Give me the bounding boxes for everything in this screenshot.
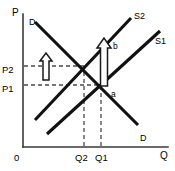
supply-curve-s1-label: S1 xyxy=(155,30,166,48)
demand-curve xyxy=(35,22,138,125)
chart-canvas xyxy=(0,0,175,171)
origin-label: 0 xyxy=(14,147,19,165)
p2-tick-label: P2 xyxy=(2,59,14,77)
x-axis-label: Q xyxy=(160,145,168,163)
supply-curve-s2-label: S2 xyxy=(134,5,145,23)
point-b-label: b xyxy=(113,35,118,53)
point-a-label: a xyxy=(111,83,116,101)
q1-tick-label: Q1 xyxy=(95,147,108,165)
supply-demand-chart: P Q 0 P2 P1 Q2 Q1 D D S2 S1 a b xyxy=(0,0,175,171)
demand-curve-label-bottom: D xyxy=(140,127,147,145)
y-axis-label: P xyxy=(12,2,19,20)
q2-tick-label: Q2 xyxy=(75,147,88,165)
demand-curve-label-top: D xyxy=(29,11,36,29)
p1-tick-label: P1 xyxy=(2,78,14,96)
